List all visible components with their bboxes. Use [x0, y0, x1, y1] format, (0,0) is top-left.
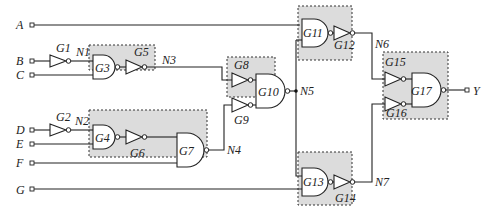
gate-g2-not	[50, 124, 71, 136]
junction-n5	[294, 89, 298, 93]
input-label-g: G	[16, 183, 25, 197]
input-port-e	[30, 142, 34, 146]
input-port-d	[30, 128, 34, 132]
label-g3: G3	[95, 61, 110, 75]
input-label-f: F	[15, 156, 24, 170]
label-g1: G1	[56, 41, 71, 55]
label-g15: G15	[385, 55, 406, 69]
label-g7: G7	[179, 144, 195, 158]
label-g4: G4	[95, 131, 110, 145]
label-g10: G10	[258, 85, 279, 99]
input-label-c: C	[16, 68, 25, 82]
output-port-y	[465, 88, 469, 92]
wire-n3	[147, 67, 232, 80]
label-n7: N7	[374, 175, 390, 189]
label-n3: N3	[161, 53, 176, 67]
input-port-g	[30, 187, 34, 191]
output-label-y: Y	[473, 84, 481, 98]
label-g6: G6	[130, 146, 145, 160]
circuit-diagram: A B C D E F G Y	[0, 0, 490, 216]
label-n4: N4	[226, 143, 241, 157]
label-g17: G17	[411, 84, 433, 98]
input-label-e: E	[15, 137, 24, 151]
input-port-b	[30, 59, 34, 63]
gate-g1-not	[50, 55, 71, 67]
label-g14: G14	[335, 191, 356, 205]
input-label-b: B	[16, 54, 24, 68]
input-port-c	[30, 73, 34, 77]
label-g16: G16	[386, 106, 407, 120]
label-g11: G11	[303, 26, 323, 40]
input-port-f	[30, 161, 34, 165]
label-n5: N5	[299, 84, 314, 98]
label-g5: G5	[134, 45, 149, 59]
label-n1: N1	[75, 45, 90, 59]
label-g9: G9	[234, 113, 249, 127]
label-g12: G12	[334, 38, 355, 52]
label-n2: N2	[74, 114, 89, 128]
input-label-a: A	[15, 18, 24, 32]
input-port-a	[30, 23, 34, 27]
label-n6: N6	[374, 37, 389, 51]
input-label-d: D	[15, 123, 25, 137]
label-g13: G13	[303, 175, 324, 189]
label-g2: G2	[56, 110, 71, 124]
label-g8: G8	[234, 58, 249, 72]
gate-g9-not	[232, 98, 253, 112]
wire-n7	[354, 104, 385, 182]
